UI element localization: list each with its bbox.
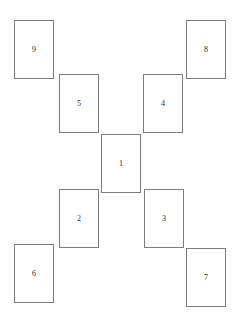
card-label: 6 [32, 270, 36, 278]
card-label: 4 [161, 100, 165, 108]
card-7[interactable]: 7 [186, 248, 226, 307]
card-9[interactable]: 9 [14, 20, 54, 79]
card-5[interactable]: 5 [59, 74, 99, 133]
card-label: 7 [204, 274, 208, 282]
card-3[interactable]: 3 [144, 189, 184, 248]
card-label: 8 [204, 46, 208, 54]
card-4[interactable]: 4 [143, 74, 183, 133]
card-1[interactable]: 1 [101, 134, 141, 193]
card-layout-canvas: 985412367 [0, 0, 240, 320]
card-2[interactable]: 2 [59, 189, 99, 248]
card-8[interactable]: 8 [186, 20, 226, 79]
card-label: 5 [77, 100, 81, 108]
card-6[interactable]: 6 [14, 244, 54, 303]
card-label: 2 [77, 215, 81, 223]
card-label: 9 [32, 46, 36, 54]
card-label: 3 [162, 215, 166, 223]
card-label: 1 [119, 160, 123, 168]
